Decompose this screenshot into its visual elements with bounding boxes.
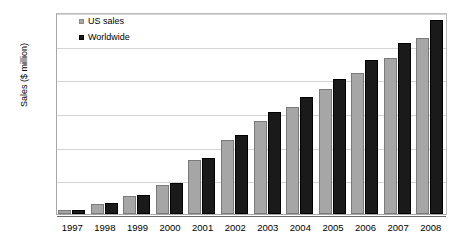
bars-layer bbox=[57, 14, 446, 214]
bar-worldwide-2002 bbox=[235, 135, 248, 214]
bar-us-sales-1998 bbox=[91, 204, 104, 214]
legend-item-worldwide: Worldwide bbox=[79, 32, 130, 42]
x-axis-tick-labels: 1997199819992000200120022003200420052006… bbox=[56, 222, 447, 242]
bar-us-sales-2008 bbox=[416, 38, 429, 214]
bar-group bbox=[383, 14, 416, 214]
legend-label: Worldwide bbox=[88, 32, 130, 42]
bar-us-sales-1997 bbox=[58, 210, 71, 214]
bar-worldwide-2001 bbox=[202, 158, 215, 214]
plot-area bbox=[56, 13, 447, 215]
bar-group bbox=[285, 14, 318, 214]
bar-group bbox=[318, 14, 351, 214]
x-axis-tick-label: 2008 bbox=[411, 222, 451, 233]
bar-us-sales-2006 bbox=[351, 73, 364, 214]
bar-group bbox=[220, 14, 253, 214]
bar-group bbox=[253, 14, 286, 214]
legend-item-us-sales: US sales bbox=[79, 16, 130, 26]
bar-us-sales-2005 bbox=[319, 89, 332, 214]
bar-us-sales-2003 bbox=[254, 121, 267, 214]
legend-label: US sales bbox=[88, 16, 124, 26]
bar-group bbox=[350, 14, 383, 214]
bar-group bbox=[187, 14, 220, 214]
bar-worldwide-2000 bbox=[170, 183, 183, 214]
bar-worldwide-2008 bbox=[430, 20, 443, 214]
bar-us-sales-2001 bbox=[188, 160, 201, 214]
bar-worldwide-2005 bbox=[333, 79, 346, 214]
bar-group bbox=[415, 14, 448, 214]
bar-worldwide-2004 bbox=[300, 97, 313, 214]
bar-worldwide-1998 bbox=[105, 203, 118, 214]
gridline bbox=[57, 216, 446, 217]
bar-us-sales-2002 bbox=[221, 140, 234, 214]
bar-group bbox=[155, 14, 188, 214]
bar-chart: Sales ($ million) 3000250020001500100050… bbox=[0, 0, 459, 251]
bar-us-sales-1999 bbox=[123, 196, 136, 214]
bar-worldwide-2007 bbox=[398, 43, 411, 214]
bar-us-sales-2004 bbox=[286, 107, 299, 214]
bar-group bbox=[57, 14, 90, 214]
black-square-icon bbox=[79, 35, 84, 40]
gray-square-icon bbox=[79, 19, 84, 24]
bar-worldwide-2006 bbox=[365, 60, 378, 214]
bar-us-sales-2007 bbox=[384, 58, 397, 214]
bar-us-sales-2000 bbox=[156, 185, 169, 214]
chart-legend: US sales Worldwide bbox=[79, 16, 130, 42]
bar-worldwide-2003 bbox=[268, 112, 281, 214]
bar-group bbox=[122, 14, 155, 214]
y-axis-title: Sales ($ million) bbox=[19, 5, 29, 145]
bar-worldwide-1997 bbox=[72, 210, 85, 214]
bar-group bbox=[90, 14, 123, 214]
bar-worldwide-1999 bbox=[137, 195, 150, 214]
